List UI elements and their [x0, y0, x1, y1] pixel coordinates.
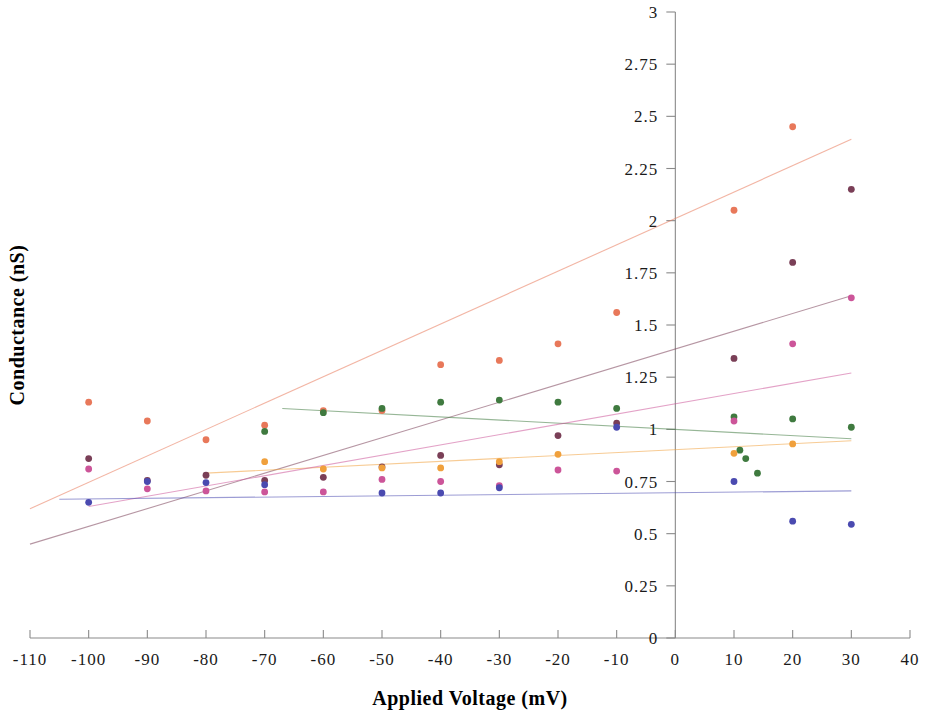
trend-line-series-6-blue: [59, 491, 851, 499]
data-point: [379, 465, 386, 472]
data-point: [555, 399, 562, 406]
data-point: [144, 485, 151, 492]
data-point: [555, 432, 562, 439]
y-tick-label: 2.5: [634, 107, 658, 126]
data-point: [789, 123, 796, 130]
data-point: [555, 467, 562, 474]
data-point: [144, 418, 151, 425]
data-point: [261, 428, 268, 435]
y-tick-label: 0.25: [625, 577, 659, 596]
data-point: [555, 340, 562, 347]
data-point: [379, 405, 386, 412]
data-point: [848, 424, 855, 431]
data-point: [789, 340, 796, 347]
data-point: [613, 424, 620, 431]
y-axis: 00.250.50.7511.251.51.7522.252.52.753: [625, 3, 676, 648]
data-point: [754, 470, 761, 477]
data-point: [731, 418, 738, 425]
data-point: [379, 490, 386, 497]
data-point: [437, 452, 444, 459]
data-point: [85, 499, 92, 506]
data-point: [613, 309, 620, 316]
x-axis-title: Applied Voltage (mV): [372, 687, 568, 710]
y-tick-label: 2.25: [625, 160, 659, 179]
trend-line-series-3-green: [282, 408, 851, 438]
scatter-chart: -110-100-90-80-70-60-50-40-30-20-1001020…: [0, 0, 930, 717]
data-point: [789, 416, 796, 423]
data-point: [848, 294, 855, 301]
data-point: [144, 478, 151, 485]
trend-line-series-4-orange: [206, 441, 851, 473]
data-point: [85, 455, 92, 462]
data-point: [789, 518, 796, 525]
data-point: [320, 489, 327, 496]
x-tick-label: 0: [671, 650, 681, 669]
x-tick-label: -60: [310, 650, 336, 669]
y-tick-label: 1: [649, 420, 659, 439]
series-series-2-maroon: [85, 186, 854, 484]
data-point: [261, 458, 268, 465]
data-points: [85, 123, 854, 527]
x-axis: -110-100-90-80-70-60-50-40-30-20-1001020…: [13, 630, 920, 669]
y-tick-label: 1.25: [625, 368, 659, 387]
x-tick-label: -40: [428, 650, 454, 669]
data-point: [261, 481, 268, 488]
y-tick-label: 0.5: [634, 525, 658, 544]
data-point: [203, 487, 210, 494]
x-tick-label: -10: [604, 650, 630, 669]
data-point: [320, 409, 327, 416]
y-tick-label: 0: [649, 629, 659, 648]
data-point: [203, 479, 210, 486]
data-point: [731, 450, 738, 457]
data-point: [736, 447, 743, 454]
data-point: [437, 490, 444, 497]
y-tick-label: 1.5: [634, 316, 658, 335]
data-point: [203, 436, 210, 443]
data-point: [613, 468, 620, 475]
y-axis-title: Conductance (nS): [6, 245, 29, 406]
y-tick-label: 1.75: [625, 264, 659, 283]
x-tick-label: -110: [13, 650, 48, 669]
x-tick-label: -90: [134, 650, 160, 669]
data-point: [613, 405, 620, 412]
x-tick-label: 10: [725, 650, 744, 669]
data-point: [742, 455, 749, 462]
data-point: [437, 478, 444, 485]
data-point: [437, 465, 444, 472]
x-tick-label: 30: [842, 650, 861, 669]
data-point: [848, 186, 855, 193]
data-point: [496, 357, 503, 364]
data-point: [731, 478, 738, 485]
data-point: [85, 399, 92, 406]
chart-canvas: -110-100-90-80-70-60-50-40-30-20-1001020…: [0, 0, 930, 717]
y-tick-label: 2.75: [625, 55, 659, 74]
x-tick-label: -50: [369, 650, 395, 669]
data-point: [320, 474, 327, 481]
data-point: [203, 472, 210, 479]
y-tick-label: 0.75: [625, 473, 659, 492]
trend-line-series-2-maroon: [30, 296, 851, 544]
data-point: [848, 521, 855, 528]
x-tick-label: -30: [486, 650, 512, 669]
data-point: [437, 399, 444, 406]
data-point: [261, 489, 268, 496]
data-point: [85, 466, 92, 473]
y-tick-label: 3: [649, 3, 659, 22]
data-point: [555, 451, 562, 458]
x-tick-label: -100: [71, 650, 106, 669]
data-point: [789, 259, 796, 266]
x-tick-label: 40: [901, 650, 920, 669]
data-point: [496, 458, 503, 465]
x-tick-label: -70: [252, 650, 278, 669]
data-point: [496, 484, 503, 491]
data-point: [379, 476, 386, 483]
series-series-5-pink: [85, 294, 854, 495]
series-series-1-salmon: [85, 123, 796, 443]
data-point: [261, 422, 268, 429]
data-point: [731, 207, 738, 214]
data-point: [731, 355, 738, 362]
data-point: [789, 441, 796, 448]
data-point: [496, 397, 503, 404]
data-point: [437, 361, 444, 368]
x-tick-label: -80: [193, 650, 219, 669]
